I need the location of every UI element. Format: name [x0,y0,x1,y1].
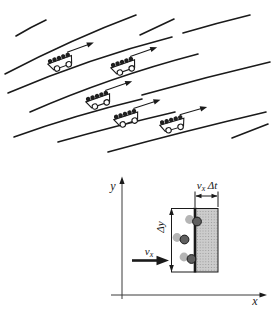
y-axis-arrowhead-icon [119,177,124,185]
dy-dimension-label: Δy [154,221,166,233]
y-axis-label: y [109,179,116,193]
textbook-figure: y x Δy vxΔt [0,0,280,316]
streamlines [5,15,270,152]
streamline [16,20,46,36]
vx-label: vx [145,245,154,259]
dy-down-arrowhead-icon [169,265,174,272]
molecule [193,217,202,226]
dim-right-arrowhead-icon [212,194,218,198]
molecule [187,255,196,264]
vx-velocity: vx [132,245,169,265]
streamline [142,62,270,95]
streamline [140,19,174,35]
dim-left-arrowhead-icon [196,194,202,198]
streamlines-figure [0,0,280,160]
dy-up-arrowhead-icon [169,208,174,215]
x-axis-arrowhead-icon [260,292,268,297]
flux-diagram: y x Δy vxΔt [0,160,280,316]
molecule-cart [158,104,211,134]
vxdt-dimension-label: vxΔt [197,179,218,193]
vxdt-dimension: vxΔt [195,179,218,208]
molecule-cart [112,97,165,129]
streamline [183,15,250,33]
molecule [180,235,189,244]
x-axis-label: x [251,294,258,308]
vx-arrowhead-icon [157,256,170,266]
streamline [232,124,268,138]
